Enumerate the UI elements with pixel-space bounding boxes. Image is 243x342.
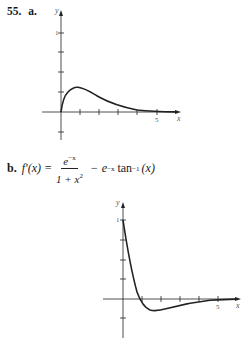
part-b-label: b. — [7, 161, 17, 176]
x-axis-label-a: x — [176, 114, 181, 123]
y-axis-label-a: y — [54, 6, 59, 15]
y-axis-arrow-icon — [121, 202, 125, 208]
y-tick-label-1-a: 1 — [55, 29, 59, 37]
graph-b — [103, 202, 241, 338]
term2-fn: tan — [117, 161, 132, 176]
y-tick-label-1-b: 1 — [116, 216, 120, 224]
minus-sign: − — [91, 161, 98, 176]
curve-f-prime — [123, 220, 236, 311]
fraction: e−x 1 + x2 — [56, 152, 83, 185]
equation-lhs: f′(x) = — [22, 161, 52, 176]
x-axis-label-b: x — [235, 301, 240, 310]
x-tick-label-5-a: 5 — [155, 116, 159, 124]
x-tick-label-5-b: 5 — [216, 303, 220, 311]
y-axis-label-b: y — [115, 198, 120, 207]
graph-a — [42, 10, 181, 140]
derivative-equation: b. f′(x) = e−x 1 + x2 − e−x tan−1 (x) — [7, 152, 155, 185]
term2-arg: (x) — [142, 161, 155, 176]
curve-f — [61, 87, 176, 112]
y-axis-arrow-icon — [59, 10, 63, 16]
